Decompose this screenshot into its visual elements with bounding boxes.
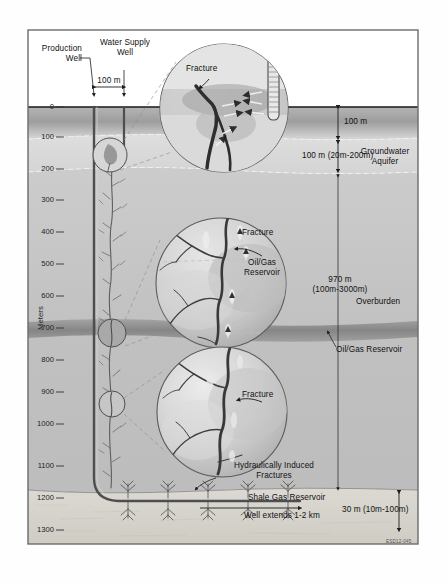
- axis-tick-500: 500: [20, 259, 54, 268]
- inset-surface-fracture-graphic: [160, 44, 288, 173]
- stratum-label-groundwater-aquifer: Groundwater Aquifer: [352, 147, 418, 167]
- axis-tick-0: 0: [20, 102, 54, 111]
- axis-tick-1200: 1200: [20, 493, 54, 502]
- depth-callout-overburden: 970 m (100m-3000m): [300, 275, 380, 295]
- depth-callout-100m: 100 m: [344, 117, 367, 127]
- axis-tick-1100: 1100: [20, 461, 54, 470]
- inset3-fracture-caption: Fracture: [242, 390, 273, 400]
- well-spacing-label: 100 m: [85, 76, 133, 86]
- hydraulic-fracturing-diagram: Production Well Water Supply Well 100 m …: [0, 0, 447, 585]
- annotation-hydraulic-fractures: Hydraulically Induced Fractures: [218, 461, 330, 481]
- inset2-fracture-caption: Fracture: [242, 228, 273, 238]
- depth-callout-shale: 30 m (10m-100m): [342, 505, 409, 515]
- inset-shale-graphic: [157, 347, 288, 477]
- water-supply-well-label: Water Supply Well: [92, 38, 158, 58]
- axis-tick-900: 900: [20, 387, 54, 396]
- axis-tick-200: 200: [20, 164, 54, 173]
- axis-tick-1000: 1000: [20, 419, 54, 428]
- axis-tick-400: 400: [20, 227, 54, 236]
- axis-tick-800: 800: [20, 355, 54, 364]
- shale-gas-reservoir-band: [28, 488, 418, 544]
- inset1-fracture-caption: Fracture: [186, 64, 217, 74]
- axis-tick-700: 700: [20, 323, 54, 332]
- inset2-oilgas-caption: Oil/Gas Reservoir: [234, 258, 290, 278]
- stratum-label-shale-gas-reservoir: Shale Gas Reservoir: [248, 493, 325, 503]
- annotation-well-extent: Well extends 1-2 km: [244, 511, 320, 521]
- axis-tick-300: 300: [20, 195, 54, 204]
- axis-tick-100: 100: [20, 132, 54, 141]
- axis-tick-600: 600: [20, 291, 54, 300]
- production-well-label: Production Well: [28, 44, 82, 64]
- axis-tick-1300: 1300: [20, 525, 54, 534]
- stratum-label-overburden: Overburden: [356, 297, 400, 307]
- stratum-label-oil-gas-reservoir: Oil/Gas Reservoir: [336, 345, 402, 355]
- figure-credit: ESD12-045: [386, 539, 412, 544]
